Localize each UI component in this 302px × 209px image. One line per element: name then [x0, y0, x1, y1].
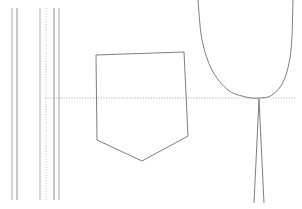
- drawing-canvas: [0, 0, 302, 209]
- stem-right-edge: [259, 99, 264, 203]
- figure-svg: [0, 0, 302, 209]
- pentagon-outline: [96, 52, 188, 161]
- parabola-bowl: [198, 0, 293, 98]
- stem-left-edge: [254, 99, 259, 203]
